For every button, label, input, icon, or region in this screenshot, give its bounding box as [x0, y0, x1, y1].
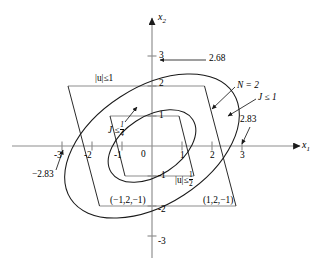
- diagram-svg: [0, 0, 328, 267]
- label-n-equals-2: N = 2: [237, 81, 259, 90]
- x-tick-1: 1: [180, 151, 185, 160]
- annotation-2point83: 2.83: [240, 115, 256, 124]
- label-j-leq-1: J ≤ 1: [258, 93, 277, 102]
- x-tick-2: 2: [210, 151, 215, 160]
- y-tick-2: 2: [159, 79, 164, 88]
- x-tick-minus-2: -2: [84, 151, 92, 160]
- axis-y: [148, 18, 157, 258]
- y-tick-minus-2: -2: [158, 205, 166, 214]
- x-tick-3: 3: [240, 151, 245, 160]
- x-tick-minus-1: -1: [114, 151, 122, 160]
- leader-n-equals-2: [212, 87, 235, 109]
- label-u-leq-one-half: |u|≤12: [175, 171, 193, 187]
- y-tick-1: 1: [159, 111, 164, 120]
- axis-x-label: x1: [302, 140, 310, 153]
- leader-j-leq-quarter: [125, 107, 137, 122]
- y-tick-minus-1: -1: [158, 171, 166, 180]
- label-vertex-left: (−1,2,−1): [110, 196, 146, 205]
- leader-2point83: [242, 127, 250, 144]
- annotation-minus-2point83: −2.83: [32, 170, 54, 179]
- x-tick-minus-3: -3: [54, 151, 62, 160]
- label-u-leq-1: |u|≤1: [95, 74, 113, 83]
- figure-canvas: x1 x2 3 2 1 -1 -2 -3 -3 -2 -1 1 2 3 0 2.…: [0, 0, 328, 267]
- axis-y-label: x2: [158, 12, 166, 25]
- label-j-leq-one-quarter: J ≤14: [108, 121, 124, 137]
- y-tick-3: 3: [159, 51, 164, 60]
- annotation-2point68: 2.68: [209, 54, 225, 63]
- y-tick-minus-3: -3: [158, 237, 166, 246]
- label-vertex-right: (1,2,−1): [203, 196, 233, 205]
- origin-label: 0: [141, 150, 146, 159]
